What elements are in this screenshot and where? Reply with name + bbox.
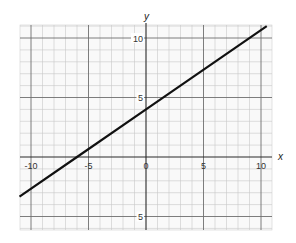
x-tick-label: 0 bbox=[143, 161, 148, 171]
x-tick-label: -10 bbox=[24, 161, 37, 171]
x-axis-label: x bbox=[277, 151, 284, 162]
coordinate-graph: -10-505101055 x y bbox=[0, 0, 296, 243]
y-axis-label: y bbox=[143, 11, 150, 22]
y-tick-label: 5 bbox=[138, 93, 143, 103]
y-tick-label: 5 bbox=[138, 212, 143, 222]
x-tick-label: 5 bbox=[201, 161, 206, 171]
x-tick-label: -5 bbox=[84, 161, 92, 171]
x-tick-label: 10 bbox=[256, 161, 266, 171]
y-tick-label: 10 bbox=[133, 34, 143, 44]
